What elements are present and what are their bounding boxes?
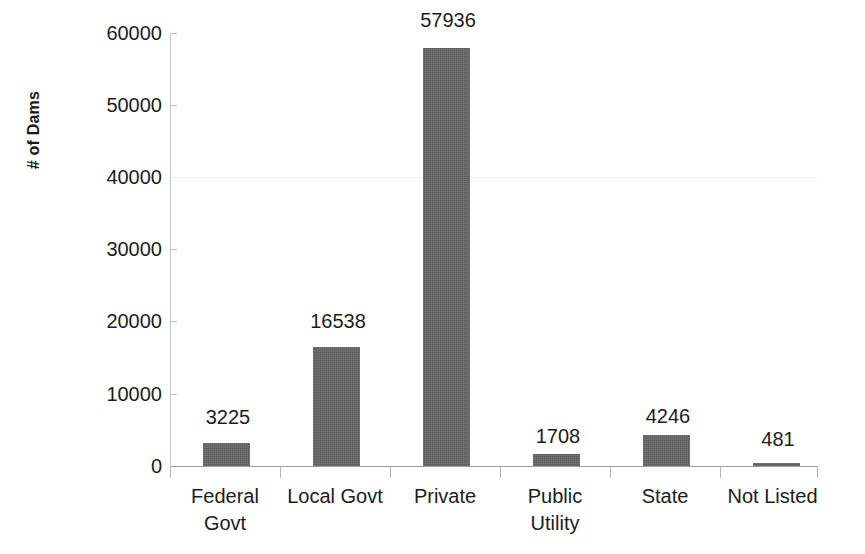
y-tick-label-10000: 10000 — [50, 383, 162, 406]
x-tick-mark-5 — [720, 466, 721, 478]
x-axis-label-federal-govt-line1: Federal — [170, 483, 280, 510]
bar-federal-govt[interactable] — [203, 443, 250, 466]
bar-label-state: 4246 — [618, 405, 718, 428]
x-axis-label-state: State — [610, 483, 720, 510]
y-axis-tick-labels: 60000 50000 40000 30000 20000 10000 0 — [50, 0, 162, 554]
x-axis-label-public-utility: Public Utility — [500, 483, 610, 537]
y-tick-label-60000: 60000 — [50, 22, 162, 45]
x-tick-mark-2 — [390, 466, 391, 478]
y-tick-label-0: 0 — [50, 455, 162, 478]
x-axis-label-federal-govt-line2: Govt — [170, 510, 280, 537]
x-axis-label-not-listed: Not Listed — [715, 483, 830, 510]
bar-local-govt[interactable] — [313, 347, 360, 466]
x-tick-mark-4 — [610, 466, 611, 478]
y-tick-label-30000: 30000 — [50, 238, 162, 261]
x-tick-mark-6 — [817, 466, 818, 478]
bar-label-public-utility: 1708 — [508, 425, 608, 448]
x-axis-label-private-line1: Private — [390, 483, 500, 510]
y-tick-label-20000: 20000 — [50, 310, 162, 333]
x-axis-label-not-listed-line1: Not Listed — [715, 483, 830, 510]
x-axis-label-local-govt-line1: Local Govt — [280, 483, 390, 510]
bar-chart: # of Dams 60000 50000 40000 30000 20000 … — [0, 0, 865, 554]
x-axis-label-public-utility-line1: Public — [500, 483, 610, 510]
bar-public-utility[interactable] — [533, 454, 580, 466]
x-tick-mark-0 — [170, 466, 171, 478]
y-axis-title: # of Dams — [14, 50, 54, 210]
bar-label-local-govt: 16538 — [288, 310, 388, 333]
x-axis-label-state-line1: State — [610, 483, 720, 510]
y-tick-label-50000: 50000 — [50, 94, 162, 117]
bar-label-federal-govt: 3225 — [178, 406, 278, 429]
bar-label-private: 57936 — [398, 9, 498, 32]
x-axis-label-local-govt: Local Govt — [280, 483, 390, 510]
x-axis-label-federal-govt: Federal Govt — [170, 483, 280, 537]
bar-private[interactable] — [423, 48, 470, 466]
x-tick-mark-3 — [500, 466, 501, 478]
bar-label-not-listed: 481 — [728, 428, 828, 451]
plot-area — [170, 33, 818, 466]
x-axis-label-public-utility-line2: Utility — [500, 510, 610, 537]
x-tick-mark-1 — [280, 466, 281, 478]
x-axis-label-private: Private — [390, 483, 500, 510]
y-tick-label-40000: 40000 — [50, 166, 162, 189]
bar-not-listed[interactable] — [753, 463, 800, 466]
bar-state[interactable] — [643, 435, 690, 466]
